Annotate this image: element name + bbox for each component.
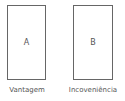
card-b: B	[73, 5, 113, 80]
card-b-letter: B	[90, 38, 96, 47]
card-a-caption: Vantagem	[0, 86, 54, 94]
card-a-letter: A	[24, 38, 29, 47]
card-b-caption: Incoveniência	[63, 86, 123, 94]
card-a: A	[7, 5, 46, 80]
